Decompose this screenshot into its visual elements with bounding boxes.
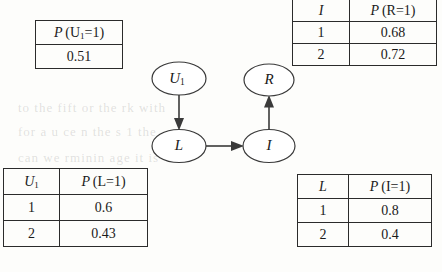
cpt-i-row0-prob: 0.8: [349, 199, 432, 223]
figure-canvas: to the fift or the rk with for a u ce n …: [0, 0, 442, 272]
edge-l-to-i: [206, 141, 244, 151]
table-row: 2 0.4: [298, 223, 432, 247]
table-row: U1 P (L=1): [4, 169, 148, 195]
background-bleed-line-1: to the fift or the rk with: [18, 100, 166, 116]
graph-node-r[interactable]: R: [244, 64, 294, 96]
cpt-l-row1-prob: 0.43: [60, 221, 148, 247]
table-row: 2 0.72: [293, 44, 437, 66]
cpt-r-col-parent: I: [293, 0, 350, 22]
cpt-table-l: U1 P (L=1) 1 0.6 2 0.43: [3, 168, 148, 247]
cpt-l-col-parent: U1: [4, 169, 60, 195]
table-row: I P (R=1): [293, 0, 437, 22]
cpt-table-r: I P (R=1) 1 0.68 2 0.72: [292, 0, 437, 66]
graph-node-r-label: R: [263, 71, 273, 87]
cpt-table-i: L P (I=1) 1 0.8 2 0.4: [297, 174, 432, 247]
cpt-i-row0-parent: 1: [298, 199, 349, 223]
cpt-value-prior-u1: 0.51: [36, 45, 123, 69]
cpt-l-row0-prob: 0.6: [60, 195, 148, 221]
graph-node-l[interactable]: L: [152, 130, 206, 163]
cpt-r-row1-parent: 2: [293, 44, 350, 66]
cpt-l-row1-parent: 2: [4, 221, 60, 247]
table-row: P (U1=1): [36, 21, 123, 45]
cpt-i-row1-parent: 2: [298, 223, 349, 247]
table-row: L P (I=1): [298, 175, 432, 199]
graph-node-u1-label: U1: [169, 70, 185, 87]
graph-node-l-label: L: [174, 137, 183, 153]
table-row: 1 0.68: [293, 22, 437, 44]
graph-node-u1[interactable]: U1: [152, 62, 206, 95]
cpt-r-row1-prob: 0.72: [350, 44, 437, 66]
background-bleed-line-3: can we rminin age it is: [18, 150, 159, 166]
cpt-r-row0-parent: 1: [293, 22, 350, 44]
cpt-l-row0-parent: 1: [4, 195, 60, 221]
cpt-header-prior-u1: P (U1=1): [36, 21, 123, 45]
table-row: 1 0.6: [4, 195, 148, 221]
table-row: 2 0.43: [4, 221, 148, 247]
table-row: 0.51: [36, 45, 123, 69]
cpt-l-col-prob: P (L=1): [60, 169, 148, 195]
table-row: 1 0.8: [298, 199, 432, 223]
cpt-i-col-parent: L: [298, 175, 349, 199]
background-bleed-line-2: for a u ce n the s 1 the: [18, 124, 157, 140]
cpt-i-col-prob: P (I=1): [349, 175, 432, 199]
cpt-i-row1-prob: 0.4: [349, 223, 432, 247]
graph-node-i[interactable]: I: [243, 130, 295, 163]
cpt-r-row0-prob: 0.68: [350, 22, 437, 44]
cpt-table-prior-u1: P (U1=1) 0.51: [35, 20, 123, 69]
graph-node-i-label: I: [266, 137, 273, 153]
cpt-r-col-prob: P (R=1): [350, 0, 437, 22]
edge-i-to-r: [264, 95, 274, 130]
edge-u1-to-l: [174, 95, 184, 131]
